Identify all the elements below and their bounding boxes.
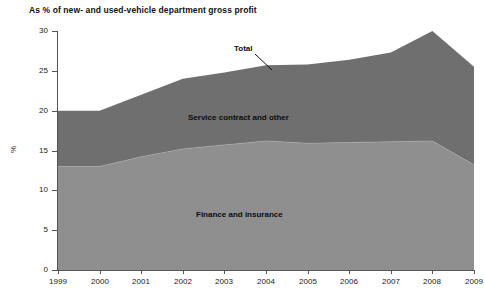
chart-root: As % of new- and used-vehicle department… — [0, 0, 485, 304]
y-tick — [52, 31, 57, 32]
x-tick — [100, 270, 101, 274]
x-tick — [391, 270, 392, 274]
x-tick-label: 2005 — [290, 277, 326, 286]
y-tick-label: 30 — [28, 27, 48, 35]
x-tick — [58, 270, 59, 274]
x-tick — [308, 270, 309, 274]
stacked-area-svg — [58, 31, 474, 270]
plot-area — [58, 31, 474, 270]
y-tick-label: 20 — [28, 107, 48, 115]
x-tick-label: 2008 — [414, 277, 450, 286]
x-tick-label: 1999 — [40, 277, 76, 286]
finance-area-label: Finance and insurance — [196, 210, 283, 219]
chart-title: As % of new- and used-vehicle department… — [29, 5, 257, 15]
y-axis-title: % — [9, 146, 18, 153]
y-tick-label: 25 — [28, 67, 48, 75]
service-area-label: Service contract and other — [188, 113, 289, 122]
x-tick — [224, 270, 225, 274]
x-tick-label: 2006 — [331, 277, 367, 286]
x-tick-label: 2003 — [206, 277, 242, 286]
y-tick — [52, 111, 57, 112]
x-tick — [141, 270, 142, 274]
y-tick-label: 5 — [28, 226, 48, 234]
y-tick-label: 0 — [28, 266, 48, 274]
y-tick — [52, 270, 57, 271]
x-tick — [183, 270, 184, 274]
y-tick-label: 10 — [28, 186, 48, 194]
x-tick-label: 2007 — [373, 277, 409, 286]
y-tick — [52, 151, 57, 152]
x-tick-label: 2009 — [456, 277, 485, 286]
x-tick-label: 2000 — [82, 277, 118, 286]
x-tick — [266, 270, 267, 274]
x-tick-label: 2004 — [248, 277, 284, 286]
total-annotation-label: Total — [234, 44, 253, 53]
y-tick — [52, 71, 57, 72]
x-tick-label: 2002 — [165, 277, 201, 286]
x-tick — [349, 270, 350, 274]
x-tick-label: 2001 — [123, 277, 159, 286]
y-tick — [52, 190, 57, 191]
x-tick — [432, 270, 433, 274]
x-tick — [474, 270, 475, 274]
y-tick — [52, 230, 57, 231]
y-tick-label: 15 — [28, 147, 48, 155]
